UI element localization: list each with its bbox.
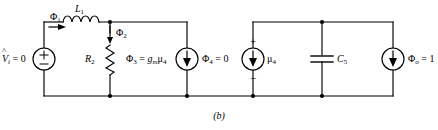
- mu4-plus-symbol: +: [250, 35, 256, 47]
- junction-dot-phi3-bottom: [185, 94, 189, 98]
- resistor-subscript: 2: [91, 58, 95, 66]
- flux0-label: Φo = 1: [408, 54, 434, 66]
- junction-dot-c5-bottom: [320, 94, 324, 98]
- junction-dot-c5-top: [320, 20, 324, 24]
- flux3-subscript: 3: [133, 58, 137, 66]
- flux2-subscript: 2: [123, 32, 127, 40]
- flux2-label: Φ2: [116, 28, 127, 40]
- flux4-subscript: 4: [209, 58, 213, 66]
- flux3-equals: =: [139, 53, 145, 64]
- capacitor-symbol: C: [337, 53, 344, 64]
- flux3-mu-subscript: 4: [163, 58, 167, 66]
- inductor-l1-label: L1: [75, 4, 84, 16]
- flux4-value: = 0: [215, 53, 228, 64]
- junction-dot-r2-bottom: [108, 94, 112, 98]
- mu4-subscript: 4: [272, 58, 276, 66]
- junction-dot-r2-top: [108, 20, 112, 24]
- current-source-phi0-arrow-head: [389, 58, 397, 67]
- flux1-label: Φ1: [50, 12, 61, 24]
- vi-value: = 0: [13, 53, 26, 64]
- mu4-minus-symbol: −: [250, 72, 256, 84]
- figure-caption: (b): [0, 110, 438, 121]
- resistor-r2-zigzag: [106, 45, 114, 75]
- resistor-r2-label: R2: [85, 54, 95, 66]
- mu4-plus-label: +: [250, 36, 256, 47]
- capacitor-subscript: 5: [344, 58, 348, 66]
- mu4-label: μ4: [267, 54, 276, 66]
- inductor-subscript: 1: [81, 8, 85, 16]
- flux1-arrow-head: [58, 24, 66, 30]
- flux4-label: Φ4 = 0: [202, 54, 228, 66]
- circuit-figure: ^Vi = 0 Φ1 L1 Φ2 R2 Φ3 = gmμ4 Φ4 = 0 + −…: [0, 0, 438, 130]
- inductor-coil-l1: [63, 16, 99, 22]
- voltage-source-vi-label: ^Vi = 0: [2, 54, 26, 66]
- flux3-label: Φ3 = gmμ4: [126, 54, 166, 66]
- flux0-subscript: o: [415, 58, 419, 66]
- junction-dot-phi4-bottom: [251, 94, 255, 98]
- current-source-phi3-arrow-head: [183, 58, 191, 67]
- mu4-minus-label: −: [250, 73, 256, 84]
- current-source-phi4-arrow-head: [249, 58, 257, 67]
- voltage-source-plus-glyph: [40, 51, 48, 59]
- flux0-value: = 1: [421, 53, 434, 64]
- capacitor-c5-label: C5: [337, 54, 347, 66]
- vi-subscript: i: [8, 58, 10, 66]
- vi-hat-accent: ^: [2, 47, 6, 56]
- flux2-arrow-head: [107, 37, 113, 44]
- flux1-subscript: 1: [57, 16, 61, 24]
